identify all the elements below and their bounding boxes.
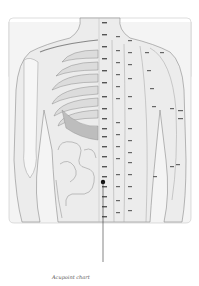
anatomy-illustration xyxy=(0,0,199,286)
caption: Acupoint chart xyxy=(52,274,90,280)
